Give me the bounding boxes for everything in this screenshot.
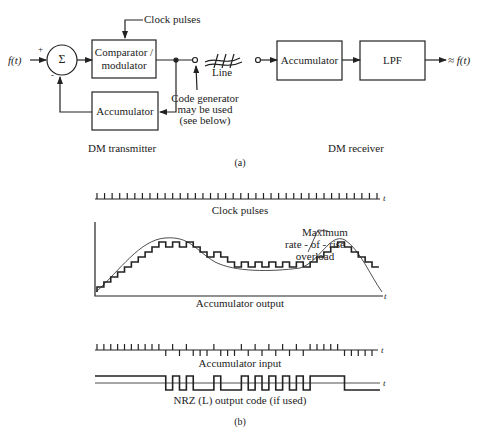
svg-text:t: t — [383, 193, 386, 203]
plus-sign: + — [38, 43, 43, 56]
code-gen-label-3: (see below) — [160, 114, 250, 127]
dm-receiver-title: DM receiver — [328, 142, 384, 155]
comparator-label-2: modulator — [92, 59, 156, 72]
line-label: Line — [212, 66, 232, 79]
accumulator-input-pulses — [97, 344, 372, 356]
caption-a: (a) — [220, 156, 260, 169]
clock-pulse-train — [97, 193, 377, 199]
minus-sign: - — [51, 69, 54, 82]
svg-text:t: t — [384, 291, 387, 301]
nrz-label: NRZ (L) output code (if used) — [160, 394, 320, 407]
summer-symbol: Σ — [52, 53, 72, 66]
dm-transmitter-title: DM transmitter — [88, 142, 156, 155]
caption-b: (b) — [220, 415, 260, 428]
lpf-label: LPF — [360, 54, 425, 67]
overload-label-3: overload — [270, 250, 360, 263]
output-label: ≈ f(t) — [448, 54, 470, 67]
accumulator-input-label: Accumulator input — [180, 357, 300, 370]
clock-pulses-waveform-label: Clock pulses — [190, 204, 290, 217]
clock-pulses-label: Clock pulses — [144, 13, 201, 26]
input-label: f(t) — [8, 54, 21, 67]
accumulator-output-label: Accumulator output — [180, 297, 300, 310]
comparator-label-1: Comparator / — [92, 46, 156, 59]
svg-text:t: t — [381, 345, 384, 355]
rx-accumulator-label: Accumulator — [277, 54, 342, 67]
tx-accumulator-label: Accumulator — [92, 105, 158, 118]
svg-text:t: t — [383, 378, 386, 388]
